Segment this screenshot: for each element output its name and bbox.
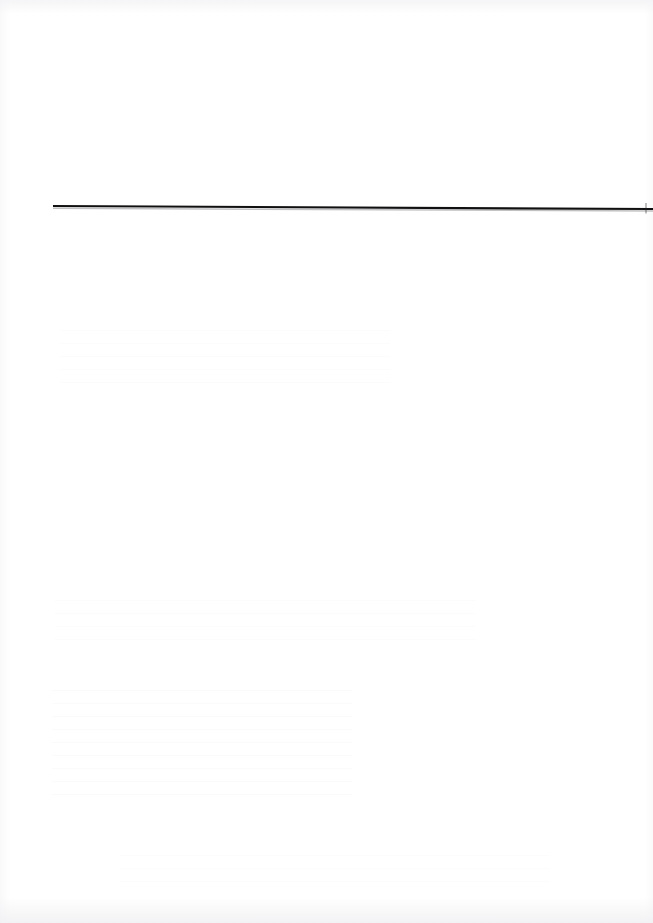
paper-edge-shading <box>0 0 653 923</box>
show-through-artifact <box>52 690 352 800</box>
show-through-artifact <box>120 855 550 885</box>
show-through-artifact <box>55 600 475 640</box>
show-through-artifact <box>60 330 390 390</box>
scanned-page <box>0 0 653 923</box>
horizontal-rule <box>0 0 653 923</box>
